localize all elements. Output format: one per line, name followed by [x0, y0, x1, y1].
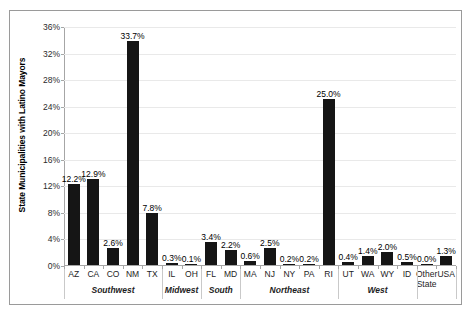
group-label: Northeast [240, 283, 338, 303]
bar[interactable] [107, 248, 119, 265]
bar[interactable] [421, 264, 433, 266]
x-axis-label: FL [206, 269, 216, 279]
group-label [417, 283, 456, 303]
x-axis-label: WY [381, 269, 395, 279]
y-tick-label: 20% [26, 128, 60, 138]
bar[interactable] [381, 252, 393, 265]
bar[interactable] [303, 264, 315, 266]
bar-value-label: 0.3% [162, 253, 181, 263]
x-axis-label: CO [107, 269, 120, 279]
bar-value-label: 0.1% [182, 254, 201, 264]
bar[interactable] [362, 256, 374, 265]
y-tick-mark [61, 27, 64, 28]
bar-value-label: 33.7% [121, 31, 145, 41]
y-tick-label: 12% [26, 181, 60, 191]
bar[interactable] [205, 242, 217, 265]
x-axis-label: NM [126, 269, 139, 279]
y-tick-label: 8% [26, 208, 60, 218]
gridline [64, 54, 456, 55]
bar-value-label: 0.6% [241, 251, 260, 261]
group-separator [417, 269, 418, 299]
x-axis-label: TX [147, 269, 158, 279]
group-label: West [338, 283, 416, 303]
y-tick-mark [61, 107, 64, 108]
x-axis-label: UT [343, 269, 354, 279]
bar-value-label: 3.4% [201, 232, 220, 242]
gridline [64, 186, 456, 187]
bar-value-label: 0.2% [280, 254, 299, 264]
bar[interactable] [264, 248, 276, 265]
y-tick-mark [61, 54, 64, 55]
y-tick-label: 0% [26, 261, 60, 271]
bar-value-label: 7.8% [143, 203, 162, 213]
group-separator [201, 269, 202, 299]
group-separator [338, 269, 339, 299]
bar-value-label: 0.4% [339, 252, 358, 262]
x-axis-label: RI [324, 269, 333, 279]
gridline [64, 160, 456, 161]
x-axis-label: PA [304, 269, 315, 279]
y-tick-label: 28% [26, 75, 60, 85]
bar-value-label: 1.4% [358, 246, 377, 256]
y-tick-mark [61, 133, 64, 134]
bar-value-label: 2.6% [103, 238, 122, 248]
bar-value-label: 25.0% [317, 89, 341, 99]
bar-value-label: 2.0% [378, 242, 397, 252]
bar[interactable] [244, 261, 256, 265]
chart-figure: State Municipalities with Latino Mayors … [9, 10, 462, 305]
x-axis-label: OH [185, 269, 198, 279]
x-axis-group-bands: SouthwestMidwestSouthNortheastWest [64, 283, 456, 303]
bar[interactable] [323, 99, 335, 265]
group-separator [240, 269, 241, 299]
group-label: Midwest [162, 283, 201, 303]
bar[interactable] [146, 213, 158, 265]
y-tick-label: 36% [26, 22, 60, 32]
y-tick-mark [61, 160, 64, 161]
bar-value-label: 0.5% [397, 252, 416, 262]
group-separator [456, 269, 457, 299]
y-tick-mark [61, 186, 64, 187]
bar-value-label: 0.0% [417, 254, 436, 264]
x-axis-label: AZ [68, 269, 79, 279]
x-axis-label: MA [244, 269, 257, 279]
bar[interactable] [401, 262, 413, 265]
y-tick-label: 4% [26, 234, 60, 244]
bar-value-label: 12.9% [81, 169, 105, 179]
y-axis-line [64, 27, 65, 266]
bar[interactable] [68, 184, 80, 265]
y-tick-mark [61, 213, 64, 214]
x-axis-label: CA [87, 269, 99, 279]
bar[interactable] [185, 264, 197, 266]
gridline [64, 107, 456, 108]
group-separator [162, 269, 163, 299]
y-tick-label: 24% [26, 102, 60, 112]
x-axis-label: MD [224, 269, 237, 279]
y-tick-mark [61, 239, 64, 240]
x-axis-label: USA [437, 269, 454, 279]
x-axis-label: ID [403, 269, 412, 279]
y-tick-label: 16% [26, 155, 60, 165]
bar-value-label: 1.3% [437, 246, 456, 256]
gridline [64, 133, 456, 134]
gridline [64, 27, 456, 28]
bar[interactable] [283, 264, 295, 266]
bar[interactable] [87, 179, 99, 265]
bar-value-label: 0.2% [299, 254, 318, 264]
bar[interactable] [225, 250, 237, 265]
plot-area: 0%4%8%12%16%20%24%28%32%36%12.2%12.9%2.6… [64, 27, 456, 266]
x-axis-label: IL [168, 269, 175, 279]
y-tick-mark [61, 80, 64, 81]
bar[interactable] [166, 263, 178, 265]
bar-value-label: 2.5% [260, 238, 279, 248]
gridline [64, 213, 456, 214]
bar[interactable] [127, 41, 139, 265]
group-separator [64, 269, 65, 299]
x-axis-label: WA [361, 269, 374, 279]
gridline [64, 80, 456, 81]
x-axis-label: NY [283, 269, 295, 279]
group-label: South [201, 283, 240, 303]
x-axis-label: NJ [265, 269, 275, 279]
bar[interactable] [342, 262, 354, 265]
group-label: Southwest [64, 283, 162, 303]
bar[interactable] [440, 256, 452, 265]
